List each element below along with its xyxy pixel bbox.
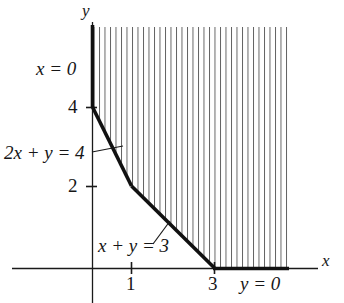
feasible-region-figure: y x 4 2 1 3 x = 0 2x + y = 4 x + y = 3 y…: [0, 0, 344, 303]
constraint-label-y-eq-0: y = 0: [240, 274, 280, 293]
x-tick-label-1: 1: [126, 274, 136, 293]
constraint-label-x-eq-0: x = 0: [36, 59, 76, 78]
y-tick-label-4: 4: [68, 97, 78, 116]
constraint-label-2x-plus-y-eq-4: 2x + y = 4: [4, 143, 85, 162]
feasible-region-hatching: [92, 27, 289, 268]
x-axis-label: x: [322, 252, 330, 269]
y-tick-label-2: 2: [68, 176, 78, 195]
y-axis-label: y: [82, 2, 90, 19]
constraint-label-x-plus-y-eq-3: x + y = 3: [98, 236, 169, 255]
x-tick-label-3: 3: [208, 274, 218, 293]
